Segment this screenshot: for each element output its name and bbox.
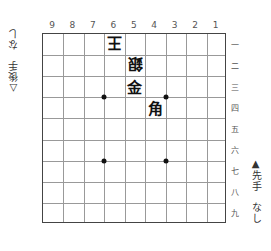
file-label-3: 3 [165,20,185,30]
grid-line [84,34,85,222]
file-label-9: 9 [42,20,62,30]
rank-label-4: 四 [229,102,241,113]
grid-line [43,161,225,162]
grid-line [43,118,225,119]
star-point [102,95,107,100]
rank-label-1: 一 [229,39,241,50]
file-label-1: 1 [206,20,226,30]
piece-gote-king[interactable]: 王 [104,34,124,55]
grid-line [166,34,167,222]
gote-mark-icon: △ [8,82,19,94]
grid-line [207,34,208,222]
grid-line [104,34,105,222]
piece-sente-bishop[interactable]: 角 [145,97,165,118]
grid-line [43,97,225,98]
file-label-7: 7 [83,20,103,30]
file-label-6: 6 [103,20,123,30]
file-label-4: 4 [144,20,164,30]
grid-line [43,203,225,204]
rank-label-7: 七 [229,165,241,176]
grid-line [43,140,225,141]
star-point [102,158,107,163]
rank-label-5: 五 [229,123,241,134]
rank-label-3: 三 [229,81,241,92]
sente-mark-icon: ▲ [250,158,261,170]
rank-label-9: 九 [229,207,241,218]
gote-hand: △後手なし [6,28,21,94]
grid-line [145,34,146,222]
rank-label-6: 六 [229,144,241,155]
gote-player-label: 後手 [8,60,19,82]
gote-hand-pieces: なし [8,28,19,50]
grid-line [43,182,225,183]
grid-line [63,34,64,222]
piece-gote-silver[interactable]: 銀 [125,55,145,76]
shogi-board: 王 銀 金 角 [42,33,226,223]
grid-line [186,34,187,222]
file-label-2: 2 [185,20,205,30]
sente-player-label: 先手 [250,170,261,192]
sente-hand: ▲先手なし [248,158,263,224]
rank-label-8: 八 [229,186,241,197]
file-label-5: 5 [124,20,144,30]
rank-label-2: 二 [229,60,241,71]
file-label-8: 8 [62,20,82,30]
sente-hand-pieces: なし [250,202,261,224]
star-point [163,158,168,163]
piece-sente-gold[interactable]: 金 [125,76,145,97]
